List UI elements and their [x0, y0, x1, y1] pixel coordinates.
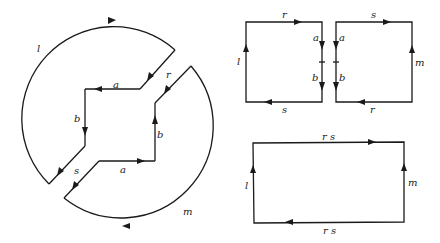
- label-l: l: [245, 180, 248, 191]
- label-r: r: [370, 104, 376, 115]
- label-a-bottom: a: [120, 164, 126, 175]
- label-b-left: b: [74, 113, 80, 124]
- label-l: l: [37, 43, 40, 54]
- arrow-icon: [401, 163, 407, 171]
- arrow-icon: [333, 82, 339, 91]
- label-m: m: [183, 206, 192, 217]
- arrow-icon: [147, 72, 154, 81]
- label-s: s: [282, 104, 287, 115]
- arrow-icon: [137, 158, 145, 164]
- arrow-icon: [319, 82, 325, 91]
- edge-r-lower: [155, 66, 191, 103]
- label-a-top: a: [113, 79, 119, 90]
- square-left-outline: [246, 22, 322, 102]
- arrow-icon: [108, 17, 116, 24]
- arrow-icon: [409, 45, 415, 53]
- arrow-icon: [368, 139, 376, 145]
- edge-s-upper: [49, 146, 85, 184]
- label-b: b: [339, 72, 345, 83]
- label-b-right: b: [157, 129, 163, 140]
- edge-s-lower: [64, 161, 99, 198]
- arrow-icon: [319, 41, 325, 50]
- arrow-icon: [264, 99, 272, 105]
- label-rs-top: r s: [322, 131, 335, 142]
- arrow-icon: [383, 19, 391, 25]
- rectangle: r s r s l m: [245, 131, 417, 236]
- label-r: r: [282, 9, 288, 20]
- square-right-outline: [336, 22, 412, 102]
- label-m: m: [415, 57, 424, 68]
- square-left: r a b s l: [237, 9, 325, 115]
- label-m: m: [408, 177, 417, 188]
- arrow-icon: [294, 19, 302, 25]
- label-a: a: [313, 32, 319, 43]
- label-rs-bottom: r s: [323, 225, 336, 236]
- label-r: r: [166, 69, 172, 80]
- arrow-icon: [122, 223, 130, 229]
- left-diagram: l a r b b s a m: [22, 17, 213, 229]
- arrow-icon: [357, 99, 365, 105]
- label-a: a: [339, 32, 345, 43]
- square-right: s a b r m: [333, 9, 424, 115]
- arrow-icon: [250, 165, 256, 173]
- label-s: s: [74, 165, 79, 176]
- arrow-icon: [285, 219, 293, 225]
- rectangle-outline: [253, 142, 404, 223]
- label-l: l: [237, 56, 240, 67]
- label-s: s: [371, 9, 376, 20]
- arrow-icon: [164, 85, 171, 94]
- arrow-icon: [94, 86, 102, 92]
- diagram-canvas: l a r b b s a m r a b s l s a b r m: [0, 0, 440, 243]
- arrow-icon: [82, 127, 88, 136]
- arrow-icon: [243, 44, 249, 52]
- arrow-icon: [152, 115, 158, 124]
- label-b: b: [312, 72, 318, 83]
